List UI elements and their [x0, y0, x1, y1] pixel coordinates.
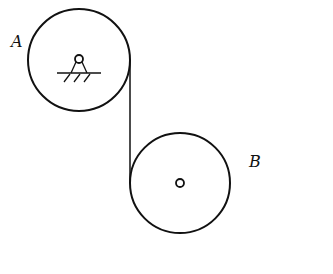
axle-icon	[176, 179, 184, 187]
pulley-diagram: A B	[0, 0, 333, 274]
pulley-a: A	[9, 9, 130, 111]
pulley-a-label: A	[9, 32, 23, 51]
fixed-support-icon	[57, 55, 101, 82]
pulley-b-label: B	[248, 152, 261, 171]
pulley-b: B	[130, 133, 261, 233]
